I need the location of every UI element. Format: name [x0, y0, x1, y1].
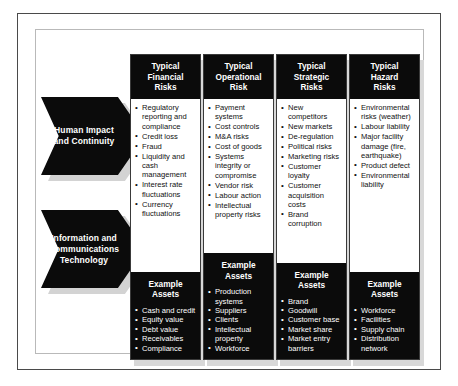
column-header-line-2: Operational [207, 72, 270, 83]
list-item: Debt value [135, 325, 197, 334]
list-item: Labour action [208, 191, 270, 200]
list-item: Distribution network [354, 334, 416, 353]
list-item: Credit loss [135, 132, 197, 141]
assets-title-line-2: Assets [353, 289, 416, 300]
risk-list-hazard: Environmental risks (weather) Labour lia… [350, 99, 419, 272]
list-item: M&A risks [208, 132, 270, 141]
list-item: Customer loyalty [281, 162, 343, 181]
list-item: Compliance [135, 344, 197, 353]
risk-column-operational: Typical Operational Risk Payment systems… [203, 54, 274, 360]
list-item: Labour liability [354, 122, 416, 131]
list-item: Political risks [281, 142, 343, 151]
column-header-strategic: Typical Strategic Risks [277, 55, 346, 99]
list-item: De-regulation [281, 132, 343, 141]
assets-title-line-1: Example [280, 270, 343, 281]
row-label-text: Human Impact and Continuity [47, 97, 121, 175]
column-header-line-3: Risks [280, 82, 343, 93]
risk-list-strategic: New competitors New markets De-regulatio… [277, 99, 346, 263]
list-item: Currency fluctuations [135, 200, 197, 219]
list-item: Intellectual property [208, 325, 270, 344]
figure-outer-frame: Human Impact and Continuity Information … [17, 13, 441, 370]
list-item: Major facility damage (fire, earthquake) [354, 132, 416, 160]
assets-block-hazard: Example Assets Workforce Facilities Supp… [350, 272, 419, 359]
assets-title-line-2: Assets [280, 280, 343, 291]
list-item: Marketing risks [281, 152, 343, 161]
column-header-line-2: Hazard [353, 72, 416, 83]
list-item: Supply chain [354, 325, 416, 334]
assets-list-financial: Cash and credit Equity value Debt value … [131, 306, 200, 353]
list-item: Systems integrity or compromise [208, 152, 270, 180]
assets-title-line-1: Example [207, 260, 270, 271]
row-label-text: Information and Communications Technolog… [47, 210, 121, 288]
list-item: Receivables [135, 334, 197, 343]
list-item: Customer acquisition costs [281, 181, 343, 209]
column-header-line-1: Typical [280, 61, 343, 72]
list-item: Product defect [354, 161, 416, 170]
risk-list-financial: Regulatory reporting and compliance Cred… [131, 99, 200, 272]
list-item: Equity value [135, 315, 197, 324]
column-header-line-2: Financial [134, 72, 197, 83]
column-header-line-3: Risks [353, 82, 416, 93]
column-header-operational: Typical Operational Risk [204, 55, 273, 99]
row-label-line-1: Human Impact [54, 125, 114, 136]
assets-title-line-1: Example [134, 279, 197, 290]
list-item: Brand corruption [281, 210, 343, 229]
assets-title-line-2: Assets [134, 289, 197, 300]
list-item: Regulatory reporting and compliance [135, 103, 197, 131]
assets-list-hazard: Workforce Facilities Supply chain Distri… [350, 306, 419, 353]
list-item: Customer base [281, 315, 343, 324]
assets-title: Example Assets [350, 272, 419, 306]
list-item: Workforce [354, 306, 416, 315]
list-item: Vendor risk [208, 181, 270, 190]
assets-block-strategic: Example Assets Brand Goodwill Customer b… [277, 263, 346, 359]
list-item: New markets [281, 122, 343, 131]
risk-column-strategic: Typical Strategic Risks New competitors … [276, 54, 347, 360]
assets-title: Example Assets [277, 263, 346, 297]
risk-column-financial: Typical Financial Risks Regulatory repor… [130, 54, 201, 360]
list-item: Fraud [135, 142, 197, 151]
list-item: New competitors [281, 103, 343, 122]
row-label-line-3: Technology [60, 255, 108, 266]
column-header-line-1: Typical [207, 61, 270, 72]
row-label-line-1: Information and [51, 233, 117, 244]
list-item: Cost of goods [208, 142, 270, 151]
column-header-hazard: Typical Hazard Risks [350, 55, 419, 99]
assets-list-operational: Production systems Suppliers Clients Int… [204, 287, 273, 353]
assets-title: Example Assets [131, 272, 200, 306]
column-header-line-3: Risk [207, 82, 270, 93]
assets-block-financial: Example Assets Cash and credit Equity va… [131, 272, 200, 359]
list-item: Payment systems [208, 103, 270, 122]
row-label-line-2: and Continuity [54, 136, 115, 147]
list-item: Interest rate fluctuations [135, 180, 197, 199]
list-item: Intellectual property risks [208, 201, 270, 220]
list-item: Market entry barriers [281, 334, 343, 353]
column-header-financial: Typical Financial Risks [131, 55, 200, 99]
list-item: Brand [281, 297, 343, 306]
list-item: Liquidity and cash management [135, 152, 197, 180]
risk-list-operational: Payment systems Cost controls M&A risks … [204, 99, 273, 253]
list-item: Environmental liability [354, 171, 416, 190]
column-header-line-1: Typical [353, 61, 416, 72]
assets-list-strategic: Brand Goodwill Customer base Market shar… [277, 297, 346, 353]
assets-title-line-2: Assets [207, 271, 270, 282]
list-item: Facilities [354, 315, 416, 324]
list-item: Environmental risks (weather) [354, 103, 416, 122]
list-item: Cash and credit [135, 306, 197, 315]
column-header-line-2: Strategic [280, 72, 343, 83]
assets-title: Example Assets [204, 253, 273, 287]
column-header-line-1: Typical [134, 61, 197, 72]
assets-title-line-1: Example [353, 279, 416, 290]
assets-block-operational: Example Assets Production systems Suppli… [204, 253, 273, 359]
list-item: Clients [208, 315, 270, 324]
risk-column-hazard: Typical Hazard Risks Environmental risks… [349, 54, 420, 360]
list-item: Suppliers [208, 306, 270, 315]
list-item: Cost controls [208, 122, 270, 131]
list-item: Production systems [208, 287, 270, 306]
list-item: Market share [281, 325, 343, 334]
column-header-line-3: Risks [134, 82, 197, 93]
list-item: Workforce [208, 344, 270, 353]
row-label-line-2: Communications [49, 244, 119, 255]
list-item: Goodwill [281, 306, 343, 315]
